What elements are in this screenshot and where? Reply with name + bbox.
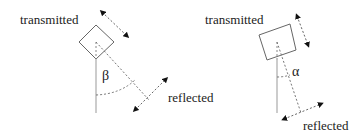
alpha-symbol: α: [292, 64, 300, 79]
beta-symbol: β: [102, 68, 109, 83]
right-reflected-polarization-arrow: [284, 104, 321, 119]
left-panel: transmitted β reflected: [20, 12, 214, 113]
right-panel: transmitted α reflected: [205, 12, 349, 133]
right-transmitted-label: transmitted: [205, 12, 264, 27]
right-reflected-label: reflected: [303, 118, 349, 133]
left-transmitted-label: transmitted: [20, 12, 79, 27]
left-reflected-polarization-arrow: [135, 79, 166, 110]
right-angle-arc: [277, 75, 290, 77]
right-transmitted-polarization-arrow: [297, 16, 308, 45]
diagram-canvas: transmitted β reflected transmitted α re…: [0, 0, 360, 140]
left-transmitted-polarization-arrow: [102, 12, 127, 36]
left-reflected-label: reflected: [168, 90, 214, 105]
